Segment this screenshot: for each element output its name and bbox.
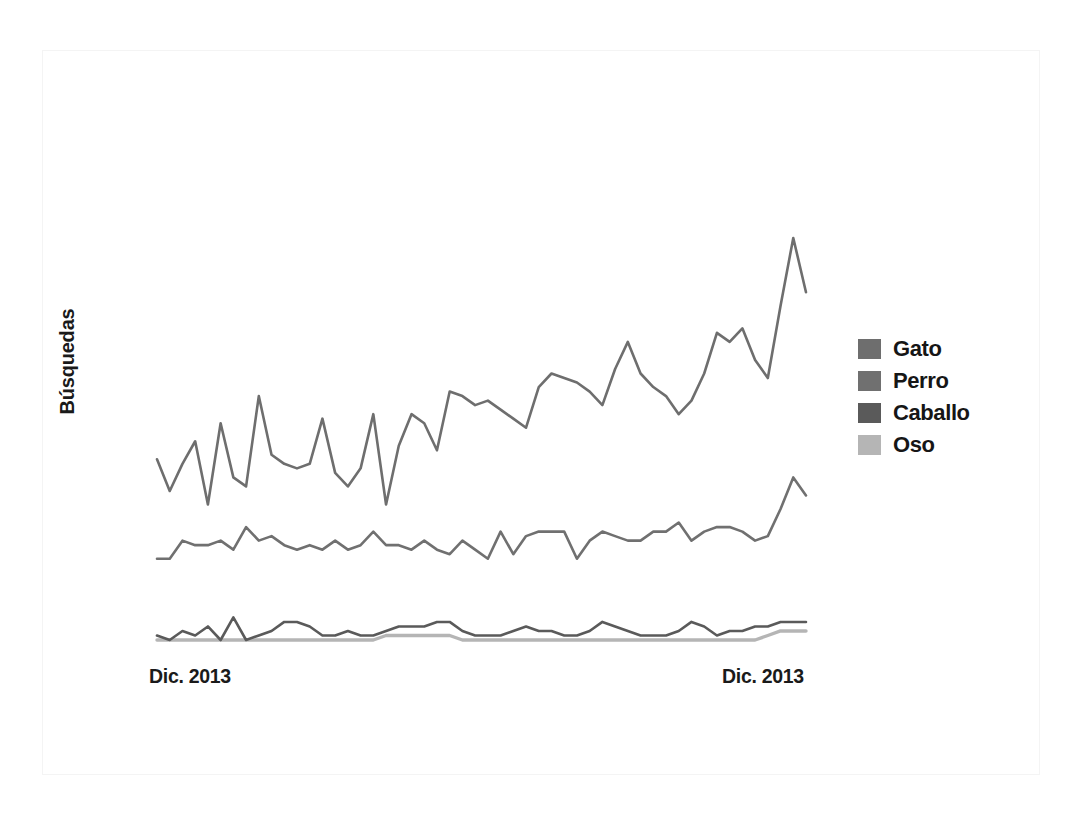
chart-figure: Búsquedas Dic. 2013 Dic. 2013 GatoPerroC… (0, 0, 1083, 827)
legend-item-label: Perro (893, 370, 948, 392)
legend-item[interactable]: Gato (858, 334, 970, 364)
legend-item[interactable]: Caballo (858, 398, 970, 428)
series-line-perro (157, 477, 806, 558)
x-axis-tick-label-right: Dic. 2013 (722, 665, 804, 688)
y-axis-label: Búsquedas (56, 277, 79, 447)
legend-swatch-icon (858, 371, 881, 391)
legend-item-label: Oso (893, 434, 935, 456)
series-line-caballo (157, 617, 806, 640)
legend-item-label: Gato (893, 338, 942, 360)
legend-swatch-icon (858, 435, 881, 455)
x-axis-tick-label-left: Dic. 2013 (149, 665, 231, 688)
legend-item[interactable]: Perro (858, 366, 970, 396)
chart-legend: GatoPerroCaballoOso (858, 334, 970, 460)
legend-item[interactable]: Oso (858, 430, 970, 460)
legend-swatch-icon (858, 403, 881, 423)
legend-item-label: Caballo (893, 402, 970, 424)
series-line-gato (157, 238, 806, 504)
legend-swatch-icon (858, 339, 881, 359)
